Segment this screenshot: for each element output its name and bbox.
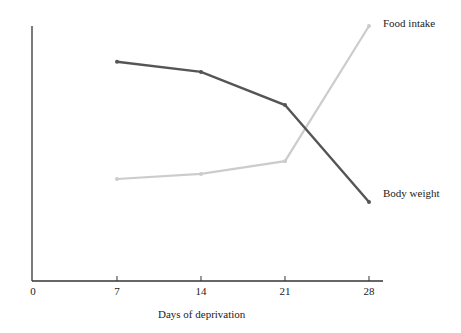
x-axis-label: Days of deprivation (158, 308, 245, 320)
body-weight-label: Body weight (383, 187, 440, 199)
data-point (199, 70, 203, 74)
data-point (115, 177, 119, 181)
x-tick-label: 0 (30, 285, 36, 297)
x-tick-label: 14 (196, 285, 207, 297)
x-tick-label: 7 (114, 285, 120, 297)
data-point (367, 200, 371, 204)
data-point (115, 60, 119, 64)
food-intake-series (115, 24, 371, 181)
line-chart (0, 0, 461, 333)
data-point (283, 103, 287, 107)
body-weight-series (115, 60, 371, 204)
x-tick-label: 28 (364, 285, 375, 297)
data-point (283, 159, 287, 163)
x-tick-label: 21 (280, 285, 291, 297)
x-ticks (117, 276, 369, 281)
data-point (199, 172, 203, 176)
food-intake-label: Food intake (383, 17, 435, 29)
data-point (367, 24, 371, 28)
